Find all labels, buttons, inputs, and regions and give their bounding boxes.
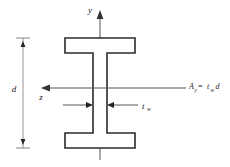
y-axis-arrow-head — [97, 10, 104, 19]
beam-cross-section-diagram: y z d t w A y = t w d — [0, 0, 230, 167]
formula-symbol-A: A — [188, 82, 194, 91]
i-beam-outline — [65, 38, 135, 148]
web-thickness-label-subscript: w — [147, 106, 151, 112]
z-axis-label: z — [38, 92, 43, 102]
web-thickness-arrow-head-left — [86, 102, 93, 108]
z-axis-group — [41, 84, 186, 91]
web-thickness-label: t w — [142, 101, 151, 112]
shear-area-formula: A y = t w d — [188, 82, 221, 93]
formula-symbol-subscript-y: y — [194, 87, 198, 93]
depth-arrow-head-bottom — [21, 139, 26, 145]
formula-term-subscript-w: w — [211, 87, 215, 93]
formula-equals-sign: = — [198, 82, 203, 91]
web-thickness-label-symbol: t — [142, 101, 145, 111]
y-axis-label: y — [87, 5, 92, 15]
web-thickness-arrow-head-right — [107, 102, 114, 108]
z-axis-arrow-head — [41, 84, 50, 91]
depth-arrow-head-top — [21, 41, 26, 47]
i-beam-section — [65, 38, 135, 148]
depth-label: d — [12, 84, 17, 94]
depth-dimension-group — [16, 38, 30, 148]
formula-term-d: d — [216, 82, 221, 91]
figure-canvas: y z d t w A y = t w d — [0, 0, 230, 167]
